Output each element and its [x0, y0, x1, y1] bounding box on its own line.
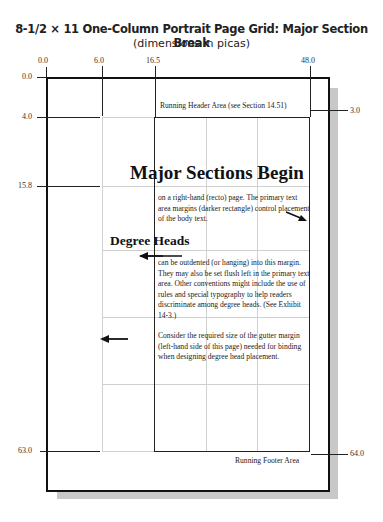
arrow-gutter-icon	[100, 335, 128, 343]
arrows-layer	[0, 0, 383, 522]
arrow-outdent-icon	[139, 252, 182, 260]
arrow-right-margin-icon	[286, 212, 307, 221]
